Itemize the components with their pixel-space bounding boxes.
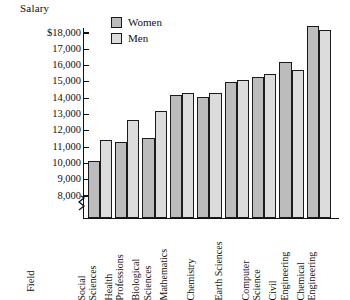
y-tick-label: $18,000: [47, 28, 81, 39]
bar-women-biological-sciences: [142, 138, 154, 217]
category-label-line: Engineering: [278, 251, 290, 300]
bar-women-civil-engineering: [279, 62, 291, 217]
y-tick-label: 17,000: [52, 44, 81, 55]
bar-men-civil-engineering: [292, 70, 304, 217]
bar-women-chemistry: [197, 97, 209, 218]
y-tick-label: 15,000: [52, 76, 81, 87]
bar-men-social-sciences: [100, 140, 112, 218]
y-tick-label: 10,000: [52, 158, 81, 169]
bar-women-health-professions: [115, 142, 127, 217]
y-axis-title: Salary: [20, 2, 49, 14]
bar-women-computer-science: [252, 77, 264, 218]
category-label-line: Chemical: [294, 262, 306, 300]
bar-men-chemistry: [209, 93, 221, 217]
bar-women-mathematics: [170, 95, 182, 218]
y-tick-label: 14,000: [52, 93, 81, 104]
y-tick-label: 8,000: [57, 191, 81, 202]
category-label-line: Earth Sciences: [212, 241, 224, 300]
category-label-line: Sciences: [87, 265, 99, 300]
category-label-line: Science: [251, 269, 263, 300]
x-axis-category-labels: SocialSciencesHealthProfessionsBiologica…: [84, 221, 340, 300]
bar-men-health-professions: [127, 120, 139, 217]
bar-men-mathematics: [182, 93, 194, 217]
category-label-line: Chemistry: [185, 258, 197, 300]
bar-men-biological-sciences: [155, 111, 167, 217]
category-label-line: Health: [102, 273, 114, 300]
x-axis-title: Field: [25, 270, 36, 292]
category-label-line: Social: [75, 275, 87, 300]
y-tick-label: 16,000: [52, 60, 81, 71]
bar-women-earth-sciences: [225, 82, 237, 218]
category-label-line: Sciences: [141, 265, 153, 300]
y-tick-label: 12,000: [52, 125, 81, 136]
bar-men-computer-science: [264, 74, 276, 218]
bar-women-social-sciences: [88, 161, 100, 218]
y-tick-label: 11,000: [53, 142, 82, 153]
category-label-line: Computer: [239, 260, 251, 300]
bar-women-chemical-engineering: [307, 26, 319, 217]
category-label-line: Professions: [114, 254, 126, 300]
category-label-line: Engineering: [306, 251, 318, 300]
salary-by-field-bar-chart: Salary Women Men $18,00017,00016,00015,0…: [0, 0, 350, 300]
bar-men-earth-sciences: [237, 80, 249, 217]
y-tick-label: 13,000: [52, 109, 81, 120]
category-label-line: Biological: [130, 258, 142, 300]
bars-layer: [84, 0, 340, 218]
category-label-line: Civil: [267, 280, 279, 300]
y-tick-label: 9,000: [57, 174, 81, 185]
category-label-line: Mathematics: [157, 248, 169, 300]
bar-men-chemical-engineering: [319, 30, 331, 218]
